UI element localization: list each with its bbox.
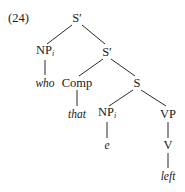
node-sbar: S′: [102, 45, 112, 59]
leaf-trace-e: e: [104, 138, 109, 152]
node-v: V: [163, 138, 172, 152]
node-s: S: [134, 76, 141, 90]
node-np-trace-label: NP: [98, 105, 114, 119]
index-subscript: i: [114, 111, 116, 120]
node-vp: VP: [160, 107, 176, 121]
node-root-sbar: S′: [72, 11, 82, 25]
node-np-wh-label: NP: [36, 43, 52, 57]
node-np-trace: NPi: [98, 105, 116, 123]
leaf-that: that: [68, 107, 86, 121]
edge-sbar-comp: [79, 59, 103, 76]
node-comp: Comp: [62, 76, 93, 90]
node-np-wh: NPi: [36, 43, 54, 61]
index-subscript: i: [52, 49, 54, 58]
edge-s-vp: [141, 90, 166, 106]
edge-sbar-s: [111, 59, 135, 76]
edge-root-np: [47, 25, 72, 44]
edge-root-sbar: [82, 25, 105, 44]
edge-s-np: [109, 90, 133, 106]
tree-edges: [0, 0, 185, 192]
leaf-who: who: [35, 76, 54, 90]
leaf-left: left: [161, 169, 176, 183]
